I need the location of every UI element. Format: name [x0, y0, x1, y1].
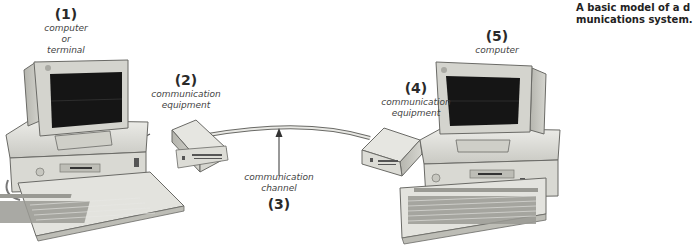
node-5-text-line-1: computer — [462, 45, 532, 56]
channel-cable — [208, 127, 370, 138]
node-3-label: communication channel (3) — [232, 172, 326, 212]
node-4-text-line-1: communication — [368, 97, 464, 108]
node-1-number: (1) — [30, 6, 102, 22]
node-5-label: (5) computer — [462, 28, 532, 56]
node-4-label: (4) communication equipment — [368, 80, 464, 119]
node-1-text-line-2: or — [30, 34, 102, 45]
node-3-text-line-1: communication — [232, 172, 326, 183]
node-2-number: (2) — [140, 72, 232, 88]
node-3-text-line-2: channel — [232, 183, 326, 194]
node-1-text-line-3: terminal — [30, 45, 102, 56]
node-1-label: (1) computer or terminal — [30, 6, 102, 56]
node-4-text-line-2: equipment — [368, 108, 464, 119]
node-2-text-line-2: equipment — [140, 100, 232, 111]
node-2-text-line-1: communication — [140, 89, 232, 100]
node-3-number: (3) — [232, 196, 326, 212]
modem-2-icon — [172, 120, 228, 172]
node-5-number: (5) — [462, 28, 532, 44]
channel-arrow-icon — [276, 128, 283, 176]
node-1-text-line-1: computer — [30, 23, 102, 34]
node-4-number: (4) — [368, 80, 464, 96]
node-2-label: (2) communication equipment — [140, 72, 232, 111]
